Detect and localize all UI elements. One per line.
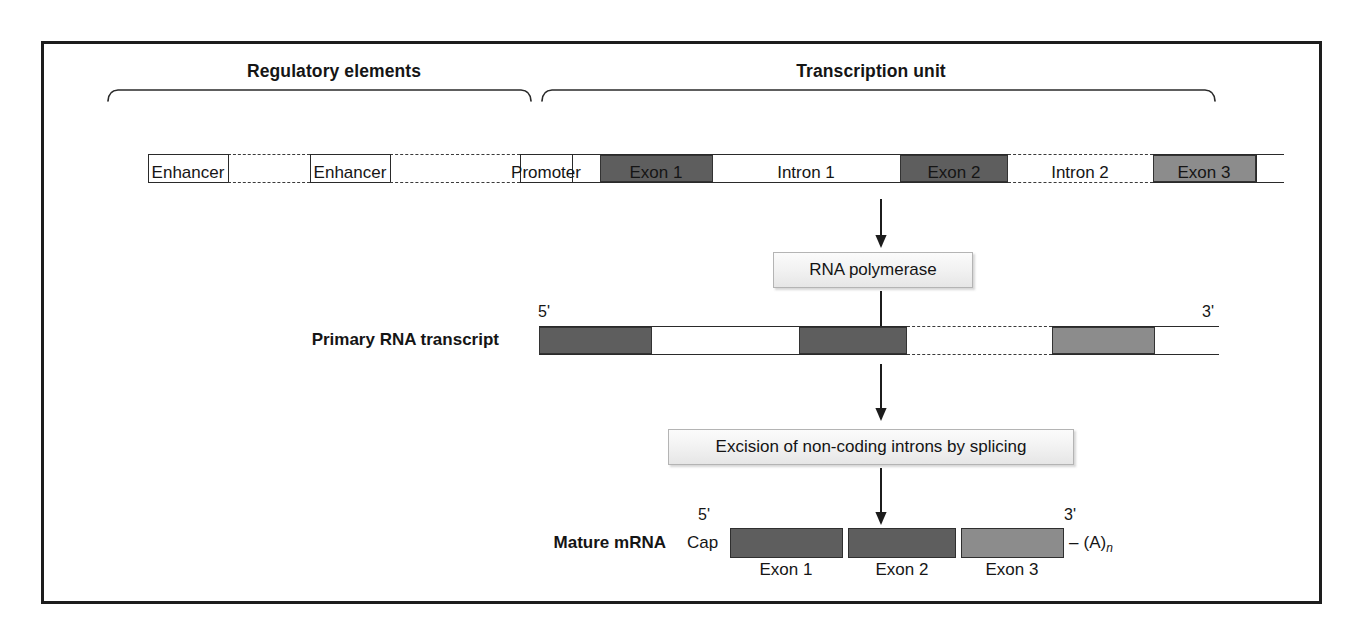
- arrow-transcription-down-1: [872, 199, 890, 249]
- dna-label-exon-1: Exon 1: [630, 163, 683, 183]
- bracket-label-transcription-unit: Transcription unit: [796, 61, 946, 81]
- dna-label-intron-2: Intron 2: [1051, 163, 1109, 183]
- dna-tick-exon3-end: [1256, 154, 1257, 182]
- dna-label-exon-2: Exon 2: [928, 163, 981, 183]
- poly-a-dash: –: [1069, 533, 1078, 552]
- transcript-3-prime-label: 3': [1202, 303, 1214, 321]
- dna-label-intron-1: Intron 1: [777, 163, 835, 183]
- mrna-poly-a-tail: –(A)n: [1069, 533, 1113, 558]
- transcript-exon-3: [1052, 327, 1155, 355]
- figure-frame: Regulatory elements Transcription unit: [41, 41, 1322, 604]
- poly-a-subscript: n: [1106, 541, 1113, 555]
- process-box-splicing[interactable]: Excision of non-coding introns by splici…: [668, 429, 1074, 465]
- row-label-primary-rna-transcript: Primary RNA transcript: [312, 330, 499, 350]
- transcript-dashed-gap-intron-2: [907, 324, 1052, 356]
- bracket-regulatory-elements: [107, 88, 532, 102]
- transcript-rail-bottom: [539, 354, 1219, 355]
- mrna-label-exon-2: Exon 2: [876, 560, 929, 580]
- transcript-exon-2: [799, 327, 907, 355]
- row-label-mature-mrna: Mature mRNA: [554, 533, 666, 553]
- transcript-exon-1: [539, 327, 652, 355]
- transcript-5-prime-label: 5': [538, 303, 550, 321]
- arrow-splicing-down-2: [872, 468, 890, 526]
- bracket-label-regulatory-elements: Regulatory elements: [247, 61, 421, 81]
- mrna-cap-label: Cap: [687, 533, 718, 553]
- arrow-splicing-down-1: [872, 364, 890, 422]
- mrna-3-prime-label: 3': [1064, 506, 1076, 524]
- mrna-exon-2-block: [848, 528, 956, 558]
- gene-expression-figure: Regulatory elements Transcription unit: [0, 0, 1354, 632]
- mrna-label-exon-1: Exon 1: [760, 560, 813, 580]
- dna-tick-enhancer1-end: [228, 154, 229, 182]
- dna-label-promoter: Promoter: [511, 163, 581, 183]
- mrna-5-prime-label: 5': [698, 506, 710, 524]
- process-box-rna-polymerase[interactable]: RNA polymerase: [773, 252, 973, 288]
- mrna-exon-3-block: [961, 528, 1064, 558]
- mrna-exon-1-block: [730, 528, 843, 558]
- primary-transcript-bar: [539, 326, 1219, 356]
- mrna-label-exon-3: Exon 3: [986, 560, 1039, 580]
- dna-label-exon-3: Exon 3: [1178, 163, 1231, 183]
- dna-tick-enhancer1-start: [148, 154, 149, 182]
- dna-tick-enhancer2-start: [310, 154, 311, 182]
- dna-label-enhancer-2: Enhancer: [314, 163, 387, 183]
- dna-label-enhancer-1: Enhancer: [152, 163, 225, 183]
- dna-dashed-gap-1: [228, 152, 310, 184]
- poly-a-open: (A): [1083, 533, 1106, 552]
- dna-dashed-gap-2: [390, 152, 520, 184]
- bracket-transcription-unit: [541, 88, 1216, 102]
- dna-tick-enhancer2-end: [390, 154, 391, 182]
